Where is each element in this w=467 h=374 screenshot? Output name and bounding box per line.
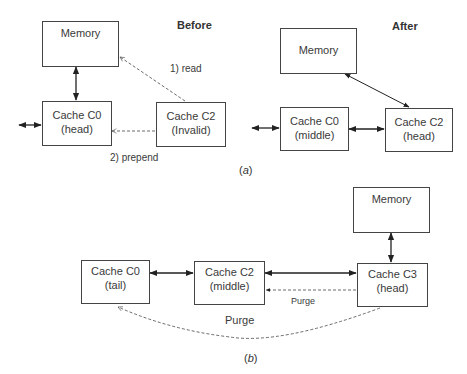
purge-short-label: Purge <box>291 296 315 306</box>
cache-c0-box-b: Cache C0 (tail) <box>81 260 150 304</box>
memory-label: Memory <box>354 192 429 206</box>
cache-state: (head) <box>358 281 427 295</box>
read-label: 1) read <box>170 63 202 74</box>
cache-name: Cache C2 <box>386 115 452 129</box>
cache-name: Cache C0 <box>82 264 149 278</box>
cache-name: Cache C2 <box>195 265 264 279</box>
caption-a: (a) <box>239 164 252 176</box>
caption-b: (b) <box>244 352 257 364</box>
cache-c0-box-after: Cache C0 (middle) <box>280 107 349 151</box>
cache-c2-box-b: Cache C2 (middle) <box>194 261 265 305</box>
cache-c3-box-b: Cache C3 (head) <box>357 263 428 307</box>
cache-state: (middle) <box>195 279 264 293</box>
cache-state: (head) <box>386 129 452 143</box>
after-title: After <box>392 20 418 32</box>
cache-state: (head) <box>43 122 111 136</box>
before-title: Before <box>177 19 212 31</box>
memory-box-before: Memory <box>42 21 119 67</box>
cache-state: (Invalid) <box>157 123 225 137</box>
cache-name: Cache C0 <box>43 108 111 122</box>
prepend-label: 2) prepend <box>110 152 158 163</box>
memory-box-after: Memory <box>280 28 357 74</box>
purge-long-label: Purge <box>225 314 254 326</box>
cache-state: (middle) <box>281 128 348 142</box>
cache-c2-box-after: Cache C2 (head) <box>385 108 453 152</box>
cache-c2-box-before: Cache C2 (Invalid) <box>156 102 226 147</box>
memory-label: Memory <box>43 26 118 40</box>
cache-name: Cache C0 <box>281 114 348 128</box>
memory-label: Memory <box>281 43 356 57</box>
cache-c0-box-before: Cache C0 (head) <box>42 101 112 146</box>
cache-name: Cache C2 <box>157 109 225 123</box>
cache-state: (tail) <box>82 278 149 292</box>
memory-box-b: Memory <box>353 187 430 233</box>
arrow-memory-c2-after <box>345 74 409 107</box>
cache-name: Cache C3 <box>358 267 427 281</box>
